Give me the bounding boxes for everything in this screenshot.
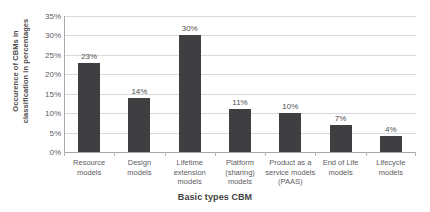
x-axis-category-label-line: Lifecycle xyxy=(364,158,418,168)
x-axis-category-labels: ResourcemodelsDesignmodelsLifetimeextens… xyxy=(64,158,416,192)
bar[interactable] xyxy=(78,63,100,152)
y-axis-title-line-2: classification in percentages xyxy=(21,19,31,124)
bar-group[interactable]: 4% xyxy=(366,16,416,152)
bar-group[interactable]: 23% xyxy=(64,16,114,152)
y-axis-tick-labels: 0%5%10%15%20%25%30%35% xyxy=(33,11,61,157)
y-axis-tick-label: 5% xyxy=(33,128,61,137)
y-axis-tick-label: 15% xyxy=(33,89,61,98)
x-axis-category-label: Designmodels xyxy=(112,158,166,177)
x-axis-tick xyxy=(64,152,65,156)
y-axis-tick-label: 30% xyxy=(33,31,61,40)
x-axis-category-label: Product as aservice models(PAAS) xyxy=(263,158,317,187)
x-axis-category-label-line: Design xyxy=(112,158,166,168)
x-axis-category-label: End of Lifemodels xyxy=(314,158,368,177)
plot-area: 23%14%30%11%10%7%4% xyxy=(64,16,416,152)
x-axis-tick xyxy=(415,152,416,156)
bar[interactable] xyxy=(229,109,251,152)
bar[interactable] xyxy=(380,136,402,152)
x-axis-tick xyxy=(265,152,266,156)
x-axis-category-label-line: models xyxy=(163,177,217,187)
bar-group[interactable]: 14% xyxy=(114,16,164,152)
y-axis-tick-label: 0% xyxy=(33,148,61,157)
x-axis-category-label-line: Resource xyxy=(62,158,116,168)
x-axis-category-label-line: Product as a xyxy=(263,158,317,168)
bar-value-label: 11% xyxy=(232,98,247,107)
bars-layer: 23%14%30%11%10%7%4% xyxy=(64,16,416,152)
x-axis-category-label: Platform(sharing)models xyxy=(213,158,267,187)
x-axis-tick xyxy=(315,152,316,156)
bar-value-label: 30% xyxy=(182,24,198,33)
x-axis-tick xyxy=(215,152,216,156)
x-axis-category-label-line: models xyxy=(112,168,166,178)
bar-group[interactable]: 7% xyxy=(315,16,365,152)
x-axis-tick xyxy=(366,152,367,156)
x-axis-category-label-line: models xyxy=(364,168,418,178)
x-axis-tick xyxy=(165,152,166,156)
y-axis-title: Occurence of CBMs in classification in p… xyxy=(6,1,36,141)
y-axis-tick-label: 35% xyxy=(33,12,61,21)
x-axis-category-label-line: models xyxy=(62,168,116,178)
bar[interactable] xyxy=(128,98,150,152)
bar-value-label: 10% xyxy=(282,102,298,111)
bar-chart-figure: Occurence of CBMs in classification in p… xyxy=(0,0,430,212)
bar-group[interactable]: 11% xyxy=(215,16,265,152)
bar-value-label: 23% xyxy=(81,52,97,61)
x-axis-category-label-line: Platform xyxy=(213,158,267,168)
x-axis-category-label-line: models xyxy=(314,168,368,178)
x-axis-category-label: Lifecyclemodels xyxy=(364,158,418,177)
x-axis-category-label-line: models xyxy=(213,177,267,187)
y-axis-tick-label: 25% xyxy=(33,50,61,59)
bar-group[interactable]: 10% xyxy=(265,16,315,152)
y-axis-tick-label: 10% xyxy=(33,109,61,118)
x-axis-category-label-line: extension xyxy=(163,168,217,178)
bar-group[interactable]: 30% xyxy=(165,16,215,152)
bar[interactable] xyxy=(279,113,301,152)
bar[interactable] xyxy=(179,35,201,152)
x-axis-category-label-line: service models xyxy=(263,168,317,178)
x-axis-title: Basic types CBM xyxy=(0,192,430,202)
bar[interactable] xyxy=(330,125,352,152)
x-axis-category-label: Resourcemodels xyxy=(62,158,116,177)
y-axis-tick-label: 20% xyxy=(33,70,61,79)
x-axis-category-label: Lifetimeextensionmodels xyxy=(163,158,217,187)
bar-value-label: 4% xyxy=(385,125,397,134)
x-axis-category-label-line: (PAAS) xyxy=(263,177,317,187)
x-axis-category-label-line: (sharing) xyxy=(213,168,267,178)
x-axis-category-label-line: End of Life xyxy=(314,158,368,168)
y-axis-title-line-1: Occurence of CBMs in xyxy=(11,30,21,112)
bar-value-label: 14% xyxy=(131,87,147,96)
x-axis-tick xyxy=(114,152,115,156)
bar-value-label: 7% xyxy=(335,114,347,123)
x-axis-ticks xyxy=(64,152,416,156)
x-axis-category-label-line: Lifetime xyxy=(163,158,217,168)
